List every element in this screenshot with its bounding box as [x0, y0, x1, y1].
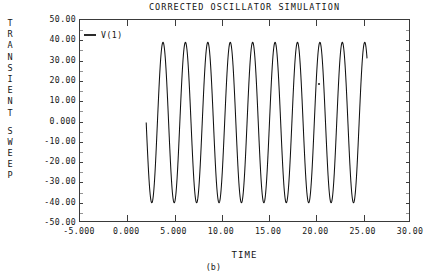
y-tick-label: 50.00 [18, 14, 76, 24]
plot-area [80, 20, 409, 221]
axis-minor-tick [80, 50, 83, 51]
axis-tick [80, 81, 83, 82]
axis-tick [316, 20, 317, 26]
axis-minor-tick [80, 91, 83, 92]
y-tick-label: 20.00 [18, 75, 76, 85]
axis-tick [269, 20, 270, 26]
axis-tick [80, 203, 83, 204]
axis-minor-tick [406, 30, 409, 31]
axis-tick [222, 20, 223, 26]
legend: V(1) [84, 30, 123, 40]
axis-tick [364, 215, 365, 221]
axis-tick [80, 61, 83, 62]
axis-tick [364, 20, 365, 26]
stray-speck [318, 83, 320, 85]
plot-frame [79, 19, 410, 222]
axis-tick [80, 162, 83, 163]
x-axis-tick-labels: -5.0000.0005.00010.0015.0020.0025.0030.0… [0, 226, 427, 240]
axis-tick [269, 215, 270, 221]
axis-minor-tick [80, 193, 83, 194]
axis-minor-tick [406, 213, 409, 214]
axis-tick [127, 215, 128, 221]
axis-tick [175, 20, 176, 26]
axis-minor-tick [406, 71, 409, 72]
axis-minor-tick [406, 152, 409, 153]
axis-tick [406, 122, 409, 123]
legend-label-v1: V(1) [101, 30, 123, 40]
axis-tick [316, 215, 317, 221]
axis-tick [175, 215, 176, 221]
axis-tick [80, 101, 83, 102]
y-tick-label: -40.00 [18, 197, 76, 207]
axis-minor-tick [80, 132, 83, 133]
axis-minor-tick [80, 71, 83, 72]
y-tick-label: -20.00 [18, 156, 76, 166]
axis-minor-tick [80, 152, 83, 153]
axis-tick [80, 40, 83, 41]
axis-minor-tick [406, 172, 409, 173]
axis-tick [80, 122, 83, 123]
axis-tick [127, 20, 128, 26]
axis-minor-tick [406, 193, 409, 194]
axis-minor-tick [80, 30, 83, 31]
y-tick-label: -30.00 [18, 176, 76, 186]
axis-minor-tick [406, 111, 409, 112]
y-tick-label: 30.00 [18, 55, 76, 65]
axis-tick [406, 142, 409, 143]
axis-minor-tick [80, 213, 83, 214]
plot-title: CORRECTED OSCILLATOR SIMULATION [79, 2, 410, 12]
axis-minor-tick [406, 50, 409, 51]
axis-tick [406, 101, 409, 102]
axis-tick [406, 40, 409, 41]
axis-tick [406, 61, 409, 62]
axis-tick [406, 203, 409, 204]
axis-tick [80, 142, 83, 143]
y-tick-label: 0.000 [18, 116, 76, 126]
axis-minor-tick [406, 132, 409, 133]
axis-tick [222, 215, 223, 221]
axis-minor-tick [80, 172, 83, 173]
legend-swatch-v1 [84, 34, 96, 35]
x-axis-title: TIME [79, 250, 410, 260]
axis-tick [406, 182, 409, 183]
axis-tick [406, 162, 409, 163]
axis-tick [80, 182, 83, 183]
figure-panel: TRANSIENTSWEEP CORRECTED OSCILLATOR SIMU… [0, 0, 427, 279]
y-axis-tick-labels: 50.0040.0030.0020.0010.000.000-10.00-20.… [14, 19, 76, 222]
figure-caption: (b) [0, 262, 427, 272]
waveform-series-v1 [80, 20, 409, 221]
axis-minor-tick [80, 111, 83, 112]
y-tick-label: 10.00 [18, 95, 76, 105]
axis-minor-tick [406, 91, 409, 92]
y-tick-label: 40.00 [18, 34, 76, 44]
y-tick-label: -10.00 [18, 136, 76, 146]
axis-tick [406, 81, 409, 82]
x-tick-label: 30.00 [380, 226, 427, 236]
